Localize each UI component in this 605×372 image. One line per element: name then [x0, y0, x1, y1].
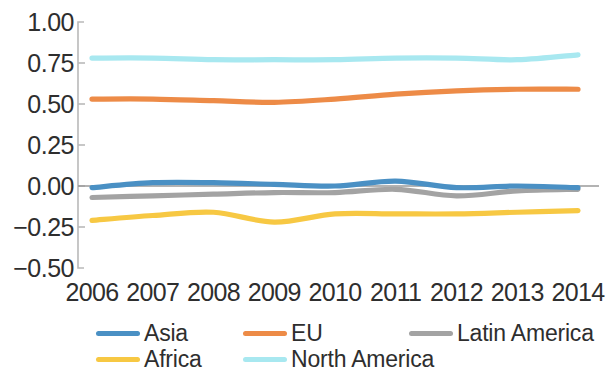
x-axis-tick-label: 2008: [187, 278, 240, 307]
x-axis-tick-label: 2013: [491, 278, 544, 307]
legend-item-eu[interactable]: EU: [243, 320, 323, 346]
series-line-asia: [92, 181, 578, 188]
x-axis-tick-label: 2010: [308, 278, 361, 307]
axis-spine-group: [78, 22, 85, 268]
series-line-latin-america: [92, 189, 578, 197]
legend-label: North America: [289, 348, 434, 371]
legend-label: EU: [289, 322, 323, 345]
legend-swatch-icon: [243, 357, 287, 362]
legend-item-north-america[interactable]: North America: [243, 346, 434, 372]
series-lines-group: [92, 55, 578, 222]
legend-swatch-icon: [243, 331, 287, 336]
legend-row-2: AfricaNorth America: [0, 346, 599, 372]
series-line-eu: [92, 89, 578, 102]
x-axis-tick-label: 2006: [65, 278, 118, 307]
x-axis-tick-label: 2007: [126, 278, 179, 307]
legend-item-latin-america[interactable]: Latin America: [409, 320, 594, 346]
x-axis-tick-label: 2011: [370, 278, 421, 307]
legend-label: Asia: [142, 322, 188, 345]
legend-row-1: AsiaEULatin America: [0, 320, 599, 346]
x-axis-labels: 200620072008200920102011201220132014: [0, 278, 599, 314]
legend-swatch-icon: [96, 331, 140, 336]
legend-item-asia[interactable]: Asia: [96, 320, 188, 346]
x-axis-tick-label: 2009: [248, 278, 301, 307]
series-line-africa: [92, 211, 578, 222]
series-line-north-america: [92, 55, 578, 60]
legend-swatch-icon: [96, 357, 140, 362]
legend-item-africa[interactable]: Africa: [96, 346, 202, 372]
chart-legend: AsiaEULatin America AfricaNorth America: [0, 320, 599, 372]
legend-label: Latin America: [455, 322, 594, 345]
chart-canvas: [0, 0, 599, 300]
x-axis-tick-label: 2014: [551, 278, 604, 307]
x-axis-tick-label: 2012: [430, 278, 483, 307]
legend-swatch-icon: [409, 331, 453, 336]
plot-area: 1.000.750.500.250.00−0.25−0.50 200620072…: [0, 0, 599, 300]
legend-label: Africa: [142, 348, 202, 371]
